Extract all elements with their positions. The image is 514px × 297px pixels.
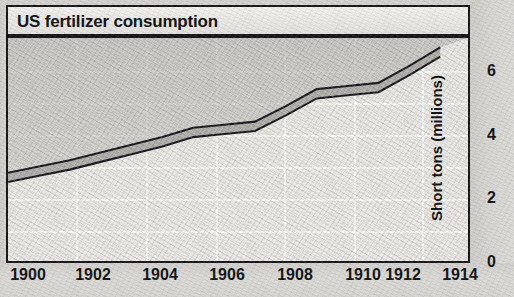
- ytick-2: 2: [487, 189, 496, 207]
- chart-title: US fertilizer consumption: [17, 12, 218, 32]
- region-above-curve: [8, 38, 468, 173]
- ytick-4: 4: [487, 126, 496, 144]
- ytick-0: 0: [487, 253, 496, 271]
- chart-title-box: US fertilizer consumption: [6, 5, 470, 36]
- xtick-1906: 1906: [209, 266, 245, 284]
- xtick-1912: 1912: [385, 266, 421, 284]
- xtick-1908: 1908: [277, 266, 313, 284]
- xtick-1914: 1914: [442, 266, 478, 284]
- chart-figure: US fertilizer consumption: [0, 0, 514, 297]
- xtick-1904: 1904: [142, 266, 178, 284]
- xtick-1900: 1900: [10, 266, 46, 284]
- xtick-1910: 1910: [345, 266, 381, 284]
- y-axis-label: Short tons (millions): [428, 75, 445, 221]
- ytick-6: 6: [487, 62, 496, 80]
- xtick-1902: 1902: [75, 266, 111, 284]
- plot-area: [6, 36, 470, 263]
- data-series-plot: [8, 38, 468, 261]
